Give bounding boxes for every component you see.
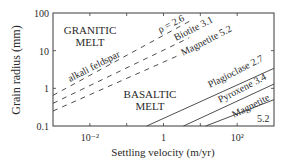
region-label-basaltic-melt: BASALTIC xyxy=(124,88,177,100)
region-label-basaltic-melt: MELT xyxy=(136,100,165,112)
x-tick-label: 10⁻² xyxy=(81,132,99,143)
y-tick-label: 100 xyxy=(34,8,49,19)
series-label-magnetite-basaltic-density: 5.2 xyxy=(257,113,270,124)
y-tick-label: 10 xyxy=(39,46,49,57)
y-tick-label: 1 xyxy=(44,83,49,94)
x-axis-label: Settling velocity (m/yr) xyxy=(111,146,215,159)
x-tick-label: 1 xyxy=(161,132,166,143)
series-label-alkali-feldspar: alkali feldspar xyxy=(66,48,122,84)
x-tick-label: 10² xyxy=(231,132,244,143)
y-tick-label: 0.1 xyxy=(37,121,50,132)
series-labels: GRANITICMELTBASALTICMELTalkali feldsparρ… xyxy=(64,12,272,124)
settling-velocity-chart: 10⁻²110²1001010.1 GRANITICMELTBASALTICME… xyxy=(0,0,287,166)
region-label-granitic-melt: MELT xyxy=(76,36,105,48)
y-axis-label: Grain radius (mm) xyxy=(9,25,23,114)
region-label-granitic-melt: GRANITIC xyxy=(64,24,117,36)
